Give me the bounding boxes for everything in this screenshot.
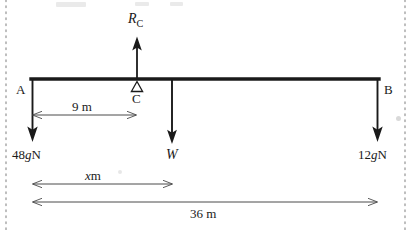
load-right-unit: N	[378, 147, 387, 162]
load-right-label: 12gN	[358, 148, 387, 161]
reaction-force-subscript: C	[137, 18, 144, 29]
beam-point-label-b: B	[384, 83, 393, 96]
load-middle-label: W	[166, 148, 178, 162]
dimension-label-9m: 9 m	[72, 100, 92, 113]
load-left-magnitude: 48	[12, 147, 25, 162]
support-point-label-c: C	[132, 92, 141, 105]
reaction-force-label: RC	[128, 12, 143, 29]
load-right-magnitude: 12	[358, 147, 371, 162]
beam-diagram-canvas	[0, 0, 412, 230]
load-left-label: 48gN	[12, 148, 41, 161]
dimension-label-36m: 36 m	[190, 207, 216, 220]
beam-diagram-figure: RC A B C 9 m 48gN W 12gN xm 36 m	[0, 0, 412, 230]
beam-point-label-a: A	[16, 83, 25, 96]
dimension-label-xm: xm	[85, 169, 101, 182]
dimension-xm-unit: m	[91, 168, 101, 183]
load-left-unit: N	[32, 147, 41, 162]
support-triangle-icon	[131, 82, 142, 92]
reaction-force-symbol: R	[128, 11, 137, 26]
